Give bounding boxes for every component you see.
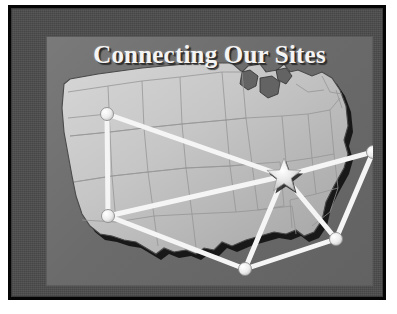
slide-canvas: Connecting Our Sites [0, 0, 397, 314]
site-node-nw[interactable] [101, 108, 114, 121]
slide-content-panel: Connecting Our Sites [46, 36, 373, 286]
slide-mat-background: Connecting Our Sites [11, 8, 383, 297]
site-node-sw[interactable] [102, 210, 115, 223]
site-node-se[interactable] [330, 233, 343, 246]
site-node-ne[interactable] [367, 146, 374, 159]
page-title: Connecting Our Sites [46, 41, 373, 69]
us-landmass [62, 63, 348, 254]
link-nw-sw [107, 114, 108, 216]
us-map-diagram [46, 36, 373, 286]
site-node-s[interactable] [239, 263, 252, 276]
